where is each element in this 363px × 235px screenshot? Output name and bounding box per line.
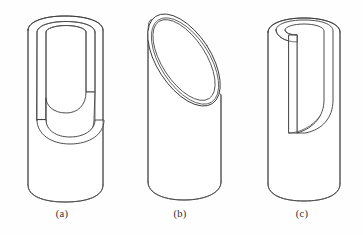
caption-panel-c: (c) [272, 208, 332, 219]
panel-b-drawing [133, 2, 235, 200]
panel-c-slot-flat-wall [289, 35, 297, 133]
panel-a-drawing [28, 16, 104, 202]
figure-drawing-canvas [0, 0, 363, 235]
figure-container: (a) (b) (c) [0, 0, 363, 235]
caption-panel-b: (b) [150, 208, 210, 219]
caption-row: (a) (b) (c) [0, 208, 363, 228]
caption-panel-a: (a) [32, 208, 92, 219]
panel-c-drawing [268, 18, 340, 201]
